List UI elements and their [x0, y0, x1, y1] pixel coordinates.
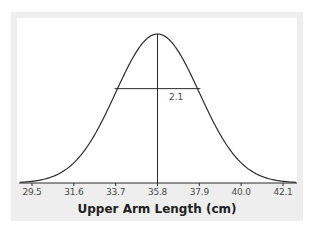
x-axis-label: Upper Arm Length (cm)	[77, 202, 236, 216]
normal-curve-chart	[0, 0, 313, 232]
x-tick-label: 29.5	[22, 187, 41, 197]
x-tick-label: 35.8	[148, 187, 167, 197]
sd-label: 2.1	[169, 92, 183, 102]
x-tick-label: 31.6	[64, 187, 83, 197]
x-tick-label: 37.9	[190, 187, 209, 197]
x-tick-label: 40.0	[232, 187, 251, 197]
x-tick-label: 42.1	[273, 187, 292, 197]
x-tick-label: 33.7	[106, 187, 125, 197]
